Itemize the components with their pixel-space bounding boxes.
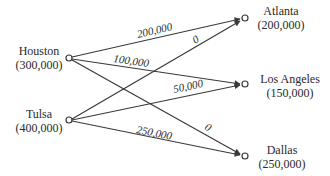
dest-dallas-name: Dallas [254, 143, 310, 157]
source-houston-supply: (300,000) [14, 58, 64, 72]
dest-losangeles-demand: (150,000) [255, 86, 325, 100]
flow-label-tulsa-atlanta: 0 [190, 32, 201, 45]
dest-atlanta-name: Atlanta [253, 4, 309, 18]
source-tulsa-name: Tulsa [14, 107, 64, 121]
node-tulsa [66, 117, 72, 123]
dest-losangeles-name: Los Angeles [255, 72, 325, 86]
flow-label-tulsa-losangeles: 50,000 [172, 77, 205, 95]
source-houston-name: Houston [14, 44, 64, 58]
node-houston [66, 55, 72, 61]
node-atlanta [242, 15, 248, 21]
node-dallas [242, 153, 248, 159]
node-losangeles [242, 81, 248, 87]
flow-label-houston-atlanta: 200,000 [136, 20, 174, 40]
dest-atlanta-demand: (200,000) [253, 18, 309, 32]
source-houston-label: Houston (300,000) [14, 44, 64, 72]
flow-label-houston-dallas: 0 [203, 120, 214, 133]
edge-houston-dallas [72, 60, 240, 154]
source-tulsa-label: Tulsa (400,000) [14, 107, 64, 135]
edge-houston-losangeles [72, 59, 240, 84]
dest-atlanta-label: Atlanta (200,000) [253, 4, 309, 32]
dest-dallas-demand: (250,000) [254, 157, 310, 171]
source-tulsa-supply: (400,000) [14, 121, 64, 135]
flow-label-tulsa-dallas: 250,000 [136, 123, 174, 142]
edge-tulsa-losangeles [72, 85, 240, 120]
dest-losangeles-label: Los Angeles (150,000) [255, 72, 325, 100]
dest-dallas-label: Dallas (250,000) [254, 143, 310, 171]
